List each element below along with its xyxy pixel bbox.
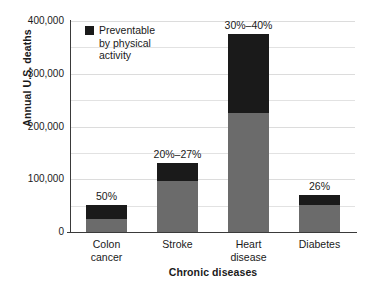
gridline (71, 74, 355, 75)
y-axis-tick-label: 100,000 (0, 173, 64, 184)
bar-segment-preventable (299, 195, 340, 204)
x-axis-line (67, 232, 357, 233)
legend-swatch-preventable-icon (85, 26, 94, 35)
x-axis-tick-label: Diabetes (260, 238, 369, 251)
bar-value-label: 50% (47, 190, 167, 202)
gridline (71, 127, 355, 128)
bar-value-label: 26% (260, 180, 369, 192)
bar-segment-not-preventable (228, 113, 269, 232)
gridline (71, 100, 355, 101)
x-axis-title: Chronic diseases (71, 266, 355, 278)
bar-value-label: 20%–27% (118, 148, 238, 160)
x-axis-tick-line: cancer (47, 251, 167, 264)
bar-colon-cancer[interactable] (86, 205, 127, 232)
x-axis-tick-line: Diabetes (260, 238, 369, 251)
legend: Preventable by physical activity (85, 24, 155, 62)
y-axis-tick-label: 200,000 (0, 121, 64, 132)
bar-segment-not-preventable (299, 205, 340, 232)
bar-value-label: 30%–40% (189, 19, 309, 31)
bar-segment-preventable (86, 205, 127, 219)
x-axis-tick-line: disease (189, 251, 309, 264)
bar-segment-preventable (228, 34, 269, 113)
legend-label-preventable: Preventable by physical activity (99, 24, 155, 62)
y-axis-tick-label: 400,000 (0, 15, 64, 26)
y-axis-tick-label: 0 (0, 226, 64, 237)
bar-heart-disease[interactable] (228, 34, 269, 232)
y-axis-tick-label: 300,000 (0, 68, 64, 79)
bar-segment-preventable (157, 163, 198, 181)
bar-diabetes[interactable] (299, 195, 340, 232)
bar-segment-not-preventable (86, 219, 127, 232)
chart-figure: Annual U.S. deaths 0100,000200,000300,00… (0, 0, 369, 289)
